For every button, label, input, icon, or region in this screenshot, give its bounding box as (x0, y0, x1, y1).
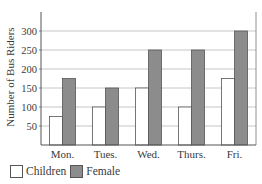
bar-female (106, 88, 119, 145)
y-tick-label: 200 (21, 64, 37, 75)
bar-chart: 50100150200250300Mon.Tues.Wed.Thurs.Fri.… (0, 0, 262, 184)
children-swatch (10, 165, 23, 178)
bar-children (93, 107, 106, 145)
x-tick-label: Mon. (51, 148, 75, 160)
legend-label-children: Children (26, 165, 66, 177)
bar-female (63, 79, 76, 146)
y-axis-label: Number of Bus Riders (4, 22, 18, 132)
legend-label-female: Female (86, 165, 120, 177)
x-tick-label: Wed. (137, 148, 160, 160)
x-tick-label: Tues. (94, 148, 118, 160)
y-tick-label: 250 (21, 45, 37, 56)
y-tick-label: 50 (27, 121, 38, 132)
bar-female (149, 50, 162, 145)
x-tick-label: Thurs. (177, 148, 206, 160)
legend: Children Female (10, 163, 124, 179)
legend-item-children: Children (10, 165, 66, 178)
female-swatch (70, 165, 83, 178)
y-tick-label: 100 (21, 102, 37, 113)
y-tick-label: 150 (21, 83, 37, 94)
y-tick-label: 300 (21, 26, 37, 37)
bar-children (136, 88, 149, 145)
bar-children (50, 117, 63, 146)
legend-item-female: Female (70, 165, 120, 178)
x-tick-label: Fri. (227, 148, 243, 160)
bar-female (235, 31, 248, 145)
bar-children (222, 79, 235, 146)
bar-children (179, 107, 192, 145)
bar-female (192, 50, 205, 145)
chart-plot: 50100150200250300Mon.Tues.Wed.Thurs.Fri. (0, 0, 262, 184)
